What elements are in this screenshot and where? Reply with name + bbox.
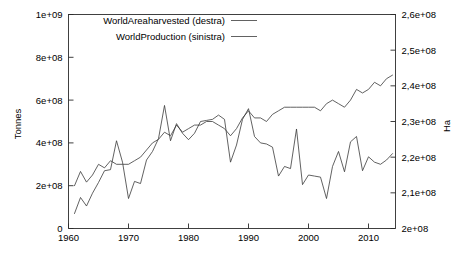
y-axis-title: Tonnes bbox=[12, 108, 23, 139]
plot-frame bbox=[69, 14, 396, 229]
bottom-tick-label: 1980 bbox=[178, 232, 199, 243]
left-tick-label: 8e+08 bbox=[36, 52, 63, 63]
right-axis-tick-labels: 2e+082,1e+082,2e+082,3e+082,4e+082,5e+08… bbox=[402, 9, 437, 234]
left-tick-label: 4e+08 bbox=[36, 137, 63, 148]
legend: WorldAreaharvested (destra) WorldProduct… bbox=[103, 15, 257, 42]
right-tick-label: 2,3e+08 bbox=[402, 116, 437, 127]
line-chart: 02e+084e+086e+088e+081e+09 2e+082,1e+082… bbox=[0, 0, 467, 259]
right-tick-label: 2,1e+08 bbox=[402, 187, 437, 198]
left-axis-ticks bbox=[69, 15, 74, 229]
bottom-axis-tick-labels: 196019701980199020002010 bbox=[58, 232, 379, 243]
left-tick-label: 1e+09 bbox=[36, 9, 63, 20]
left-axis-tick-labels: 02e+084e+086e+088e+081e+09 bbox=[36, 9, 63, 234]
right-tick-label: 2,2e+08 bbox=[402, 152, 437, 163]
right-tick-label: 2,4e+08 bbox=[402, 80, 437, 91]
bottom-tick-label: 1960 bbox=[58, 232, 79, 243]
legend-label-worldproduction: WorldProduction (sinistra) bbox=[116, 31, 225, 42]
series-line-worldproduction bbox=[75, 105, 393, 213]
y2-axis-title: Ha bbox=[441, 119, 452, 132]
chart-container: 02e+084e+086e+088e+081e+09 2e+082,1e+082… bbox=[0, 0, 467, 259]
left-tick-label: 6e+08 bbox=[36, 95, 63, 106]
right-tick-label: 2,5e+08 bbox=[402, 45, 437, 56]
right-tick-label: 2,6e+08 bbox=[402, 9, 437, 20]
left-tick-label: 2e+08 bbox=[36, 180, 63, 191]
bottom-tick-label: 2010 bbox=[358, 232, 379, 243]
bottom-axis-ticks bbox=[69, 224, 369, 229]
bottom-tick-label: 1990 bbox=[238, 232, 259, 243]
right-axis-ticks bbox=[391, 15, 396, 229]
bottom-tick-label: 2000 bbox=[298, 232, 319, 243]
bottom-tick-label: 1970 bbox=[118, 232, 139, 243]
legend-label-worldareaharvested: WorldAreaharvested (destra) bbox=[103, 15, 225, 26]
right-tick-label: 2e+08 bbox=[402, 223, 429, 234]
